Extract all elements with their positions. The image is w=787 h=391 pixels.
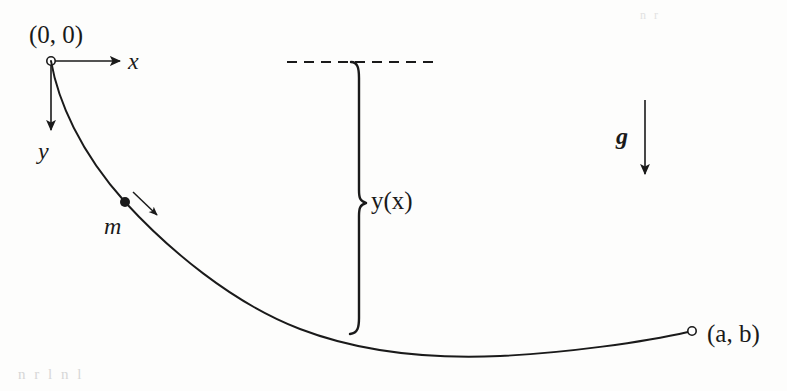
- scan-bleed-bottom: n r l n l: [18, 366, 84, 383]
- gravity-label: g: [616, 124, 628, 148]
- brachistochrone-curve: [51, 61, 688, 357]
- motion-direction-arrow: [133, 192, 157, 215]
- origin-label: (0, 0): [29, 22, 83, 47]
- endpoint-label: (a, b): [707, 321, 760, 346]
- depth-brace: [350, 62, 366, 334]
- scan-bleed-top: n r: [640, 8, 661, 23]
- y-axis-label: y: [38, 139, 49, 163]
- mass-label: m: [104, 214, 121, 238]
- depth-function-label: y(x): [371, 188, 413, 213]
- brachistochrone-figure: (0, 0) x y m y(x) g (a, b) n r l n l n r: [0, 0, 787, 391]
- endpoint-marker: [688, 327, 696, 335]
- mass-marker: [120, 197, 130, 207]
- x-axis-label: x: [128, 49, 139, 73]
